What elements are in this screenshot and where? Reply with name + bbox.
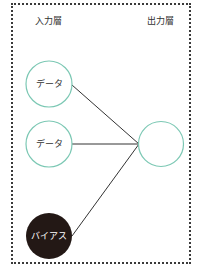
output-layer-label: 出力層 [147,14,174,27]
node-input-1-label: データ [26,78,72,90]
node-bias-label: バイアス [26,230,72,242]
node-output [139,122,184,167]
edge-in1-out [72,85,139,144]
node-input-2-label: データ [26,138,72,150]
edge-bias-out [72,144,139,236]
input-layer-label: 入力層 [35,14,62,27]
